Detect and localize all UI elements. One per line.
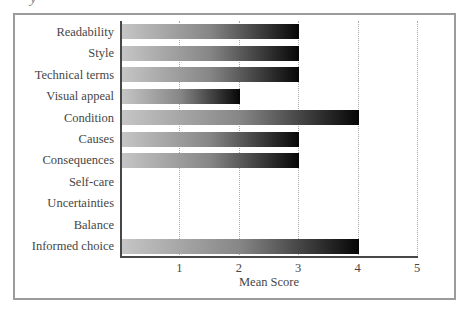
y-axis-line	[120, 21, 122, 257]
gridline-5	[417, 21, 418, 257]
category-label-visual-appeal: Visual appeal	[0, 90, 114, 103]
category-label-uncertainties: Uncertainties	[0, 197, 114, 210]
bar-condition	[121, 110, 359, 125]
bar-chart: ReadabilityStyleTechnical termsVisual ap…	[0, 0, 464, 310]
category-label-technical-terms: Technical terms	[0, 69, 114, 82]
x-tick-label-3: 3	[286, 261, 310, 276]
x-tick-label-4: 4	[346, 261, 370, 276]
x-tick-label-1: 1	[167, 261, 191, 276]
category-label-self-care: Self-care	[0, 176, 114, 189]
x-tick-label-5: 5	[405, 261, 429, 276]
category-label-informed-choice: Informed choice	[0, 240, 114, 253]
category-label-causes: Causes	[0, 133, 114, 146]
bar-style	[121, 46, 299, 61]
category-label-readability: Readability	[0, 26, 114, 39]
bar-informed-choice	[121, 239, 359, 254]
category-label-style: Style	[0, 47, 114, 60]
bar-consequences	[121, 153, 299, 168]
category-label-condition: Condition	[0, 112, 114, 125]
cropped-caption-fragment: y	[30, 0, 37, 7]
bar-visual-appeal	[121, 89, 240, 104]
x-axis-title: Mean Score	[120, 275, 418, 290]
bar-readability	[121, 24, 299, 39]
bar-causes	[121, 132, 299, 147]
category-label-balance: Balance	[0, 219, 114, 232]
category-label-consequences: Consequences	[0, 154, 114, 167]
gridline-4	[358, 21, 359, 257]
x-tick-label-2: 2	[227, 261, 251, 276]
bar-technical-terms	[121, 67, 299, 82]
x-axis-line	[120, 256, 418, 258]
